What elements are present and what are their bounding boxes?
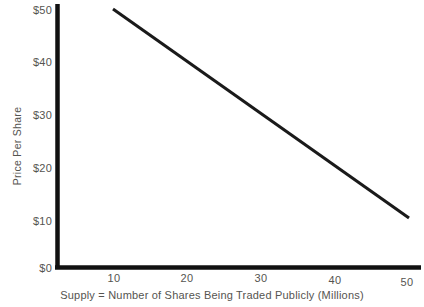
x-axis-title: Supply = Number of Shares Being Traded P… [0,289,424,302]
supply-curve-chart: $50 $40 $30 $20 $10 $0 10 20 30 40 50 Pr… [0,0,424,307]
chart-plot-area [0,0,424,307]
x-tick-label: 30 [241,272,281,284]
y-tick-label: $30 [0,109,52,121]
y-tick-label: $0 [0,262,52,274]
y-tick-label-group: $50 $40 $30 $20 $10 $0 [0,0,52,307]
y-tick-label: $50 [0,4,52,16]
y-axis-title: Price Per Share [11,91,23,201]
y-tick-label: $40 [0,56,52,68]
x-tick-label: 20 [167,272,207,284]
y-tick-label: $10 [0,215,52,227]
x-tick-label: 50 [387,276,424,288]
y-tick-label: $20 [0,162,52,174]
x-tick-label: 40 [315,274,355,286]
supply-curve-line [113,9,409,218]
x-tick-label: 10 [94,272,134,284]
